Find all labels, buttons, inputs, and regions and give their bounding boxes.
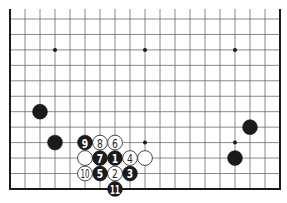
move-number: 3 (127, 167, 133, 180)
star-point (53, 48, 57, 52)
white-stone-move-4: 4 (123, 151, 138, 166)
stone-disc (228, 151, 243, 166)
white-stone-move-8: 8 (93, 135, 108, 150)
stone-disc (78, 151, 93, 166)
black-stone-move-11: 11 (108, 182, 123, 197)
stone-disc (243, 120, 258, 135)
move-number: 2 (112, 167, 118, 180)
black-stone-move-7: 7 (93, 151, 108, 166)
white-stone-move-2: 2 (108, 166, 123, 181)
stone-disc (33, 104, 48, 119)
move-number: 11 (110, 183, 120, 196)
move-number: 4 (127, 152, 133, 165)
move-number: 9 (82, 136, 88, 149)
go-board-diagram: 1234567891011 (0, 0, 287, 203)
stone-disc (48, 135, 63, 150)
white-stone-move-6: 6 (108, 135, 123, 150)
stone-disc (138, 151, 153, 166)
black-stone (48, 135, 63, 150)
move-number: 6 (112, 136, 118, 149)
move-number: 10 (80, 167, 89, 180)
white-stone (138, 151, 153, 166)
black-stone-move-3: 3 (123, 166, 138, 181)
white-stone-move-10: 10 (78, 166, 93, 181)
move-number: 8 (97, 136, 103, 149)
star-point (233, 48, 237, 52)
black-stone-move-5: 5 (93, 166, 108, 181)
black-stone-move-1: 1 (108, 151, 123, 166)
white-stone (78, 151, 93, 166)
go-board: 1234567891011 (0, 0, 287, 203)
black-stone (33, 104, 48, 119)
black-stone (243, 120, 258, 135)
move-number: 1 (112, 152, 118, 165)
black-stone-move-9: 9 (78, 135, 93, 150)
move-number: 5 (97, 167, 103, 180)
star-point (143, 48, 147, 52)
star-point (233, 141, 237, 145)
black-stone (228, 151, 243, 166)
move-number: 7 (97, 152, 103, 165)
star-point (143, 141, 147, 145)
